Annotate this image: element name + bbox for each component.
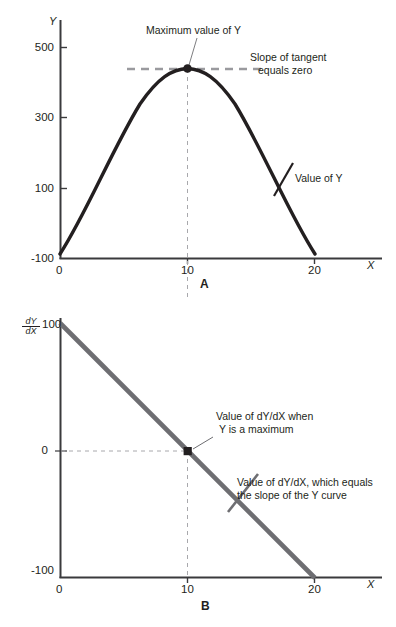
- panel-b-annotation-max-line2: Y is a maximum: [219, 423, 294, 435]
- economics-derivative-figure: [0, 0, 396, 627]
- figure-background: [0, 0, 396, 627]
- panel-a-xtick-label-0: 0: [56, 264, 62, 278]
- panel-a-annotation-tangent-line2: equals zero: [258, 64, 312, 76]
- panel-a-annotation-value-of-y: Value of Y: [295, 172, 342, 184]
- panel-b-annotation-slope-line2: the slope of the Y curve: [237, 489, 347, 501]
- panel-a-y-axis-name: Y: [49, 15, 56, 28]
- panel-a-label: A: [200, 277, 209, 291]
- panel-a-ytick-label-minus-100: -100: [12, 252, 54, 266]
- panel-b-ytick-label-minus-100: -100: [12, 564, 54, 578]
- panel-a-xtick-label-20: 20: [308, 264, 321, 278]
- panel-a-xtick-label-10: 10: [181, 264, 194, 278]
- panel-b-zero-marker: [184, 447, 192, 455]
- panel-b-xtick-label-20: 20: [308, 583, 321, 597]
- panel-b-annotation-max-line1: Value of dY/dX when: [216, 410, 313, 422]
- panel-b-ytick-label-0: 0: [12, 444, 48, 458]
- panel-b-x-axis-name: X: [367, 578, 374, 591]
- panel-b-xtick-label-10: 10: [181, 583, 194, 597]
- panel-a-annotation-tangent-line1: Slope of tangent: [250, 51, 326, 63]
- panel-a-maximum-marker: [183, 64, 192, 73]
- panel-a-ytick-label-500: 500: [12, 41, 54, 55]
- panel-b-label: B: [201, 599, 210, 613]
- panel-a-ytick-label-300: 300: [12, 111, 54, 125]
- panel-b-ytick-label-100: 100: [42, 318, 61, 332]
- panel-b-y-axis-denominator: dX: [22, 327, 40, 336]
- panel-a-ytick-label-100: 100: [12, 182, 54, 196]
- panel-a-x-axis-name: X: [367, 259, 374, 272]
- panel-a-annotation-maximum: Maximum value of Y: [146, 24, 241, 36]
- panel-b-y-axis-name: dY dX: [22, 317, 40, 337]
- panel-b-annotation-slope-line1: Value of dY/dX, which equals: [237, 476, 373, 488]
- panel-b-xtick-label-0: 0: [56, 583, 62, 597]
